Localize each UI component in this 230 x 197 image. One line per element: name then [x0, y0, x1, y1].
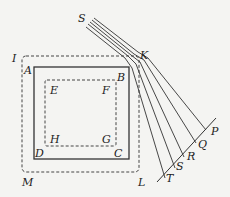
label-k: K — [139, 49, 149, 62]
label-t: T — [166, 172, 175, 185]
label-h: H — [49, 133, 60, 146]
label-q: Q — [198, 138, 207, 151]
label-g: G — [102, 133, 111, 146]
label-r: R — [186, 150, 195, 163]
label-l: L — [137, 176, 145, 189]
label-p: P — [210, 125, 219, 138]
label-a: A — [23, 64, 32, 77]
label-e: E — [49, 84, 58, 97]
label-b: B — [116, 71, 125, 84]
label-d: D — [34, 147, 44, 160]
label-s-bottom: S — [176, 160, 184, 173]
label-c: C — [114, 147, 123, 160]
geometry-diagram: S K I A B E F H G D C M L T S R Q P — [0, 0, 230, 197]
label-i: I — [11, 52, 17, 65]
label-f: F — [101, 84, 110, 97]
square-abcd — [34, 67, 129, 159]
label-s-top: S — [78, 12, 86, 25]
label-m: M — [21, 176, 34, 189]
